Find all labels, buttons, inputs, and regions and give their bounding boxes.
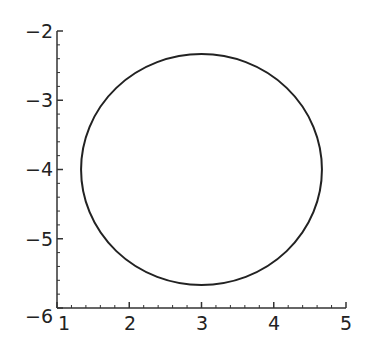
y-tick-label-neg6: −6 xyxy=(25,305,53,327)
x-tick-label-5: 5 xyxy=(340,312,352,334)
x-tick-label-3: 3 xyxy=(196,312,208,334)
y-tick-label-neg2: −2 xyxy=(25,20,53,42)
y-ticks xyxy=(57,31,63,308)
x-tick-label-1: 1 xyxy=(58,312,70,334)
y-tick-label-neg3: −3 xyxy=(25,89,53,111)
y-tick-label-neg4: −4 xyxy=(25,158,53,180)
x-tick-label-4: 4 xyxy=(268,312,280,334)
y-tick-label-neg5: −5 xyxy=(25,228,53,250)
circle-curve xyxy=(81,54,322,285)
x-tick-label-2: 2 xyxy=(124,312,136,334)
chart: 1 2 3 4 5 −6 −5 −4 −3 −2 xyxy=(0,0,373,347)
x-ticks xyxy=(57,302,346,308)
